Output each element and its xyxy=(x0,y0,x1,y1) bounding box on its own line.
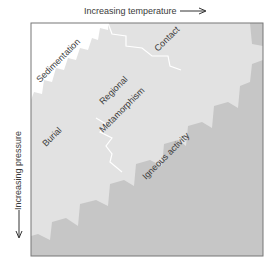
y-axis-label: Increasing pressure xyxy=(13,131,23,210)
down-arrow-icon xyxy=(16,210,22,238)
metamorphism-diagram: Increasing temperature Increasing pressu… xyxy=(0,0,277,272)
right-arrow-icon xyxy=(180,8,206,14)
x-axis-label: Increasing temperature xyxy=(84,6,177,16)
